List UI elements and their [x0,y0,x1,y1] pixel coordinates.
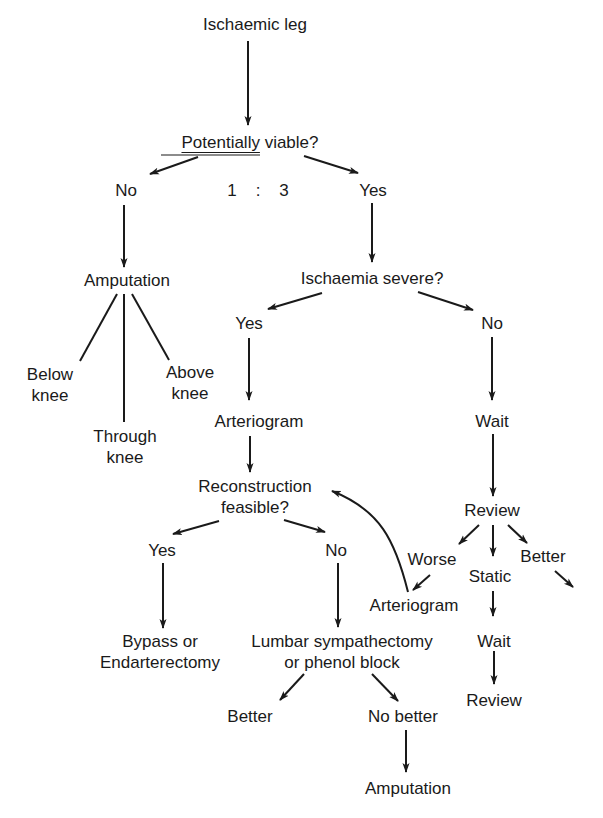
node-ischaemia-severe: Ischaemia severe? [301,268,444,289]
node-bypass-endarterectomy: Bypass orEndarterectomy [100,631,220,673]
node-potentially-viable: Potentially viable? [181,132,318,153]
arrow-recon-to-no [284,520,325,532]
potentially-underlined: Potentially [181,133,259,152]
lumbar-line1: Lumbar sympathectomy [251,631,432,652]
node-recon-yes: Yes [148,540,176,561]
node-above-knee: Aboveknee [166,362,214,404]
node-below-knee: Belowknee [27,364,73,406]
node-reconstruction-feasible: Reconstructionfeasible? [198,476,311,518]
below-knee-line1: Below [27,364,73,385]
node-lumbar-sympathectomy: Lumbar sympathectomyor phenol block [251,631,432,673]
node-better-left: Better [227,706,272,727]
bypass-line1: Bypass or [100,631,220,652]
lumbar-line2: or phenol block [251,652,432,673]
arrow-viable-to-no [150,157,198,174]
node-viable-no: No [115,180,137,201]
node-root: Ischaemic leg [203,14,307,35]
through-knee-line2: knee [93,447,156,468]
node-severe-yes: Yes [235,313,263,334]
arrow-worse-to-arteriogram [413,575,430,590]
bypass-line2: Endarterectomy [100,652,220,673]
node-better-right: Better [520,546,565,567]
node-severe-no: No [481,313,503,334]
node-arteriogram-2: Arteriogram [370,595,459,616]
arrow-lumbar-to-better [280,674,304,700]
arrow-review-to-worse [459,525,479,544]
arrow-severe-to-yes [268,293,322,309]
node-amputation-2: Amputation [365,778,451,799]
node-review-2: Review [466,690,522,711]
node-arteriogram-1: Arteriogram [215,411,304,432]
node-viable-yes: Yes [359,180,387,201]
arrow-severe-to-no [418,292,473,310]
line-amputation-below [80,294,117,361]
through-knee-line1: Through [93,426,156,447]
arrow-better-onward [555,571,573,587]
arrow-review-to-better [508,525,527,543]
recon-line1: Reconstruction [198,476,311,497]
node-amputation: Amputation [84,270,170,291]
node-review-1: Review [464,500,520,521]
node-through-knee: Throughknee [93,426,156,468]
viable-question-rest: viable? [260,133,319,152]
node-no-better: No better [368,706,438,727]
node-recon-no: No [325,540,347,561]
node-wait-1: Wait [475,411,508,432]
below-knee-line2: knee [27,385,73,406]
line-amputation-above [132,294,169,360]
node-static: Static [469,566,512,587]
node-worse: Worse [408,549,457,570]
ratio-label: 1 : 3 [227,180,288,201]
ischaemic-leg-flowchart: Ischaemic leg Potentially viable? No 1 :… [0,0,603,818]
node-wait-2: Wait [477,631,510,652]
arrow-lumbar-to-nobetter [372,674,398,701]
arrow-viable-to-yes [304,156,358,173]
above-knee-line2: knee [166,383,214,404]
recon-line2: feasible? [198,497,311,518]
arrow-recon-to-yes [173,521,219,534]
above-knee-line1: Above [166,362,214,383]
